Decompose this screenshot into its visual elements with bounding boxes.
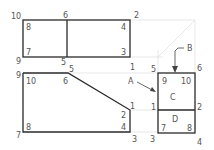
projection-diagram: 106284739519510612487356910C12D7834 AB — [0, 0, 214, 150]
front-view-label: 6 — [63, 77, 68, 86]
side-view-label: 4 — [197, 138, 202, 147]
side-view-label: 6 — [197, 64, 202, 73]
side-view-label: 7 — [161, 124, 166, 133]
side-view-label: 2 — [197, 103, 202, 112]
front-view-label: 5 — [69, 65, 74, 74]
side-view-label: 8 — [187, 124, 192, 133]
top-view-label: 9 — [16, 57, 21, 66]
callout-a: A — [128, 77, 134, 86]
top-view-label: 4 — [121, 23, 126, 32]
vertex-labels: 106284739519510612487356910C12D7834 — [11, 11, 202, 147]
top-view-label: 8 — [26, 23, 31, 32]
side-view-label: 9 — [162, 77, 167, 86]
side-view-label: C — [170, 93, 176, 102]
side-view-label: 1 — [151, 103, 156, 112]
top-view-label: 10 — [11, 12, 21, 21]
top-view-label: 1 — [130, 63, 135, 72]
front-view-label: 7 — [16, 131, 21, 140]
top-view-label: 2 — [134, 11, 139, 20]
side-view-label: 5 — [151, 65, 156, 74]
top-view — [23, 20, 130, 57]
side-view-label: 3 — [150, 135, 155, 144]
front-view-label: 4 — [121, 123, 126, 132]
front-view-label: 3 — [132, 135, 137, 144]
side-view-label: D — [172, 115, 178, 124]
top-view-label: 7 — [26, 48, 31, 57]
front-view — [23, 73, 130, 132]
front-view-label: 8 — [26, 123, 31, 132]
side-view-label: 10 — [181, 77, 191, 86]
front-view-label: 2 — [121, 111, 126, 120]
front-view-label: 9 — [16, 71, 21, 80]
arrow-a-icon — [137, 82, 156, 92]
arrow-b-icon — [172, 48, 184, 73]
top-view-label: 6 — [63, 11, 68, 20]
top-view-label: 5 — [61, 58, 66, 67]
top-view-label: 3 — [121, 48, 126, 57]
callout-b: B — [187, 44, 193, 53]
front-view-label: 10 — [26, 77, 36, 86]
front-view-label: 1 — [130, 102, 135, 111]
